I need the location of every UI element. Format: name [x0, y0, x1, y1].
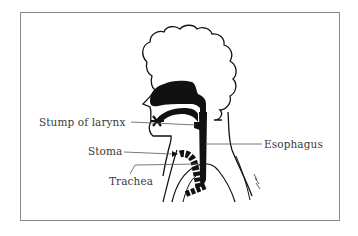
- label-esophagus: Esophagus: [264, 139, 323, 150]
- label-stoma: Stoma: [88, 146, 122, 157]
- leader-stump: [131, 122, 196, 125]
- label-trachea: Trachea: [109, 176, 153, 187]
- back-of-neck: [228, 112, 252, 196]
- front-neck-line: [163, 150, 177, 202]
- label-stump-of-larynx: Stump of larynx: [39, 117, 126, 128]
- hair-left-edge: [146, 62, 155, 90]
- artist-signature: [254, 174, 260, 189]
- leader-stoma: [124, 152, 172, 154]
- larynx-stump: [194, 122, 200, 130]
